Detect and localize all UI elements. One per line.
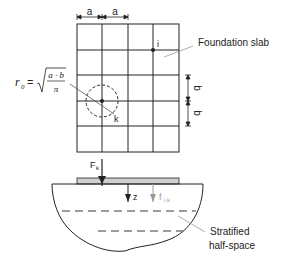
node-i-label: i bbox=[157, 39, 159, 49]
stress-arrow bbox=[150, 184, 156, 202]
dimension-a bbox=[77, 14, 128, 20]
svg-text:0: 0 bbox=[21, 83, 25, 91]
svg-text:=: = bbox=[27, 76, 33, 88]
svg-text:π: π bbox=[54, 84, 59, 94]
stress-label: f bbox=[159, 192, 162, 202]
dim-b-label-2: b bbox=[192, 110, 203, 116]
depth-arrow bbox=[125, 184, 131, 202]
radius-formula: r 0 = a · b π bbox=[15, 68, 66, 94]
node-k bbox=[100, 99, 104, 103]
halfspace-leader bbox=[178, 216, 205, 232]
halfspace-label-line1: Stratified bbox=[210, 226, 249, 237]
svg-text:r: r bbox=[15, 75, 20, 89]
halfspace-label-line2: half-space bbox=[209, 240, 256, 251]
stress-sub: i,k bbox=[164, 197, 171, 203]
depth-label: z bbox=[133, 192, 138, 202]
dim-a-label-1: a bbox=[87, 6, 93, 17]
svg-text:a · b: a · b bbox=[48, 70, 64, 80]
foundation-slab-label: Foundation slab bbox=[198, 37, 270, 48]
node-i bbox=[151, 48, 155, 52]
force-sub: k bbox=[96, 165, 100, 171]
dim-b-label-1: b bbox=[192, 85, 203, 91]
node-k-label: k bbox=[114, 114, 119, 124]
foundation-diagram: a a b b i Foundation slab k r 0 = a · b … bbox=[0, 0, 286, 267]
slab-section bbox=[77, 178, 179, 184]
dimension-b bbox=[185, 75, 191, 126]
dim-a-label-2: a bbox=[112, 6, 118, 17]
slab-grid bbox=[77, 24, 179, 152]
